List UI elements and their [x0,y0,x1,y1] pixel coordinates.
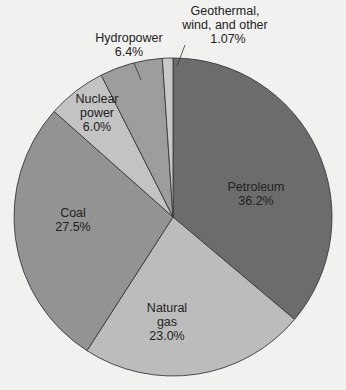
label-text: power [75,106,118,120]
label-value: 6.4% [95,45,162,59]
label-natural-gas: Natural gas 23.0% [147,301,187,343]
label-value: 1.07% [182,32,267,46]
label-text: Coal [55,206,90,220]
label-text: Hydropower [95,31,162,45]
label-value: 6.0% [75,120,118,134]
label-text: Natural [147,301,187,315]
label-petroleum: Petroleum 36.2% [228,180,285,208]
label-hydropower: Hydropower 6.4% [95,31,162,59]
label-text: wind, and other [182,18,267,32]
label-text: Petroleum [228,180,285,194]
label-text: Geothermal, [182,4,267,18]
label-geothermal: Geothermal, wind, and other 1.07% [182,4,267,46]
label-text: gas [147,315,187,329]
label-value: 23.0% [147,329,187,343]
label-text: Nuclear [75,92,118,106]
label-nuclear: Nuclear power 6.0% [75,92,118,134]
label-value: 27.5% [55,220,90,234]
label-value: 36.2% [228,194,285,208]
label-coal: Coal 27.5% [55,206,90,234]
